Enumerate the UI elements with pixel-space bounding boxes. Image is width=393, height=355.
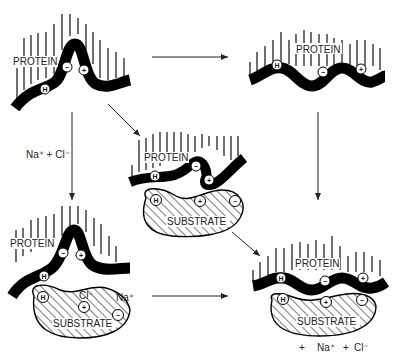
svg-text:Cl⁻: Cl⁻ [354, 342, 368, 353]
panel-protein-substrate-with-salt: PROTEIN H − + SUBSTRATE H + − Cl⁻ Na⁺ [9, 206, 134, 338]
protein-label: PROTEIN [10, 238, 54, 249]
negative-charge-icon: − [357, 295, 368, 306]
svg-text:+: + [359, 66, 363, 73]
protein-label: PROTEIN [296, 44, 340, 55]
negative-charge-icon: − [191, 161, 201, 171]
positive-charge-icon: + [204, 175, 214, 185]
svg-text:−: − [61, 250, 65, 257]
substrate-label: SUBSTRATE [297, 316, 357, 327]
svg-text:H: H [153, 197, 158, 204]
svg-text:−: − [360, 297, 364, 304]
hydrophobic-icon: H [272, 60, 282, 70]
negative-charge-icon: − [318, 67, 328, 77]
svg-text:Na⁺: Na⁺ [317, 342, 335, 353]
svg-text:H: H [40, 294, 45, 301]
positive-charge-icon: + [195, 196, 206, 207]
positive-charge-icon: + [356, 64, 366, 74]
svg-text:+: + [361, 275, 365, 282]
negative-charge-icon: − [62, 62, 72, 72]
svg-text:−: − [194, 163, 198, 170]
svg-text:+: + [299, 342, 305, 353]
svg-text:H: H [41, 273, 46, 280]
panel-free-protein-extended: PROTEIN H − + [250, 30, 385, 86]
hydrophobic-icon: H [276, 273, 286, 283]
protein-label: PROTEIN [295, 258, 339, 269]
svg-text:+: + [324, 299, 328, 306]
svg-text:H: H [152, 173, 157, 180]
negative-charge-icon: − [113, 310, 124, 321]
hydrophobic-icon: H [150, 171, 160, 181]
positive-charge-icon: + [79, 65, 89, 75]
svg-text:+: + [343, 342, 349, 353]
chloride-ion-label: Cl⁻ [79, 290, 93, 301]
svg-text:+: + [79, 252, 83, 259]
salt-label: Na⁺ + Cl⁻ [26, 149, 70, 160]
negative-charge-icon: − [58, 248, 68, 258]
negative-charge-icon: − [230, 196, 241, 207]
svg-text:H: H [280, 296, 285, 303]
protein-adsorption-diagram: PROTEIN H − + [0, 0, 393, 355]
hydrophobic-icon: H [40, 84, 50, 94]
positive-charge-icon: + [79, 302, 90, 313]
svg-text:+: + [82, 304, 86, 311]
panel-protein-substrate-initial: PROTEIN H − + SUBSTRATE H + − [130, 132, 244, 237]
hydrophobic-icon: H [38, 292, 49, 303]
svg-text:H: H [274, 62, 279, 69]
svg-text:H: H [42, 86, 47, 93]
protein-label: PROTEIN [13, 56, 57, 67]
hydrophobic-icon: H [151, 195, 162, 206]
hydrophobic-icon: H [39, 271, 49, 281]
process-arrows [72, 57, 318, 296]
sodium-ion-label: Na⁺ [116, 292, 134, 303]
svg-text:−: − [65, 64, 69, 71]
hydrophobic-icon: H [278, 294, 289, 305]
svg-text:−: − [116, 312, 120, 319]
svg-text:+: + [82, 67, 86, 74]
released-ions: + Na⁺ + Cl⁻ [299, 342, 368, 353]
svg-text:−: − [233, 198, 237, 205]
positive-charge-icon: + [358, 273, 368, 283]
arrow-to-substrate [108, 104, 140, 136]
svg-text:−: − [321, 69, 325, 76]
panel-free-protein-folded: PROTEIN H − + [12, 14, 130, 108]
protein-chain [15, 44, 130, 108]
svg-text:+: + [198, 198, 202, 205]
substrate-label: SUBSTRATE [167, 216, 227, 227]
protein-label: PROTEIN [144, 152, 188, 163]
positive-charge-icon: + [76, 250, 86, 260]
substrate-label: SUBSTRATE [53, 318, 113, 329]
svg-text:+: + [207, 177, 211, 184]
svg-text:−: − [323, 278, 327, 285]
panel-protein-substrate-adsorbed: PROTEIN H − + SUBSTRATE H + − + [253, 236, 386, 353]
positive-charge-icon: + [321, 297, 332, 308]
negative-charge-icon: − [320, 276, 330, 286]
svg-text:H: H [278, 275, 283, 282]
arrow-rearrange [232, 232, 260, 256]
